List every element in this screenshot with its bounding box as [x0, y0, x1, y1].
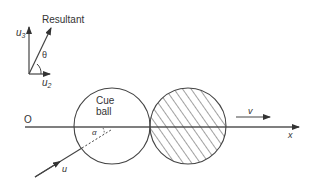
u3-label: u3	[16, 27, 26, 39]
alpha-label: α	[92, 128, 97, 137]
u2-label: u2	[42, 77, 52, 89]
u-label: u	[62, 164, 67, 174]
labels-layer: Resultant u3 u2 θ O x Cue ball α u v	[0, 0, 314, 195]
cue-ball-label-line2: ball	[96, 106, 112, 117]
theta-label: θ	[42, 50, 47, 60]
x-axis-label: x	[287, 130, 293, 140]
origin-label: O	[24, 114, 32, 125]
v-label: v	[248, 106, 253, 116]
resultant-label: Resultant	[42, 14, 84, 25]
cue-ball-label-line1: Cue	[96, 95, 115, 106]
